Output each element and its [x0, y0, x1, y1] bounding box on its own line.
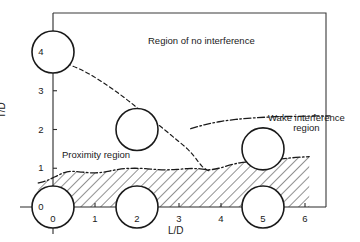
x-tick-label: 3: [172, 213, 186, 224]
y-tick-label: 0: [34, 201, 48, 212]
y-tick-label: 3: [34, 85, 48, 96]
x-tick-label: 6: [298, 213, 312, 224]
x-tick-label: 4: [214, 213, 228, 224]
x-tick-label: 5: [256, 213, 270, 224]
cylinder-ld2-td2: [116, 109, 158, 151]
y-tick-label: 4: [34, 46, 48, 57]
cylinder-ld5-td15: [242, 128, 284, 170]
region-label-proximity: Proximity region: [62, 150, 130, 160]
region-label-no-interference: Region of no interference: [148, 36, 255, 46]
y-tick-label: 1: [34, 162, 48, 173]
x-tick-label: 0: [46, 213, 60, 224]
wake-label-line-2: region: [268, 123, 345, 133]
x-axis-title: L/D: [168, 226, 184, 237]
y-axis-title: T/D: [0, 102, 7, 118]
y-tick-label: 2: [34, 124, 48, 135]
region-label-wake-interference: Wake interference region: [268, 113, 345, 133]
x-tick-label: 2: [130, 213, 144, 224]
x-tick-label: 1: [88, 213, 102, 224]
